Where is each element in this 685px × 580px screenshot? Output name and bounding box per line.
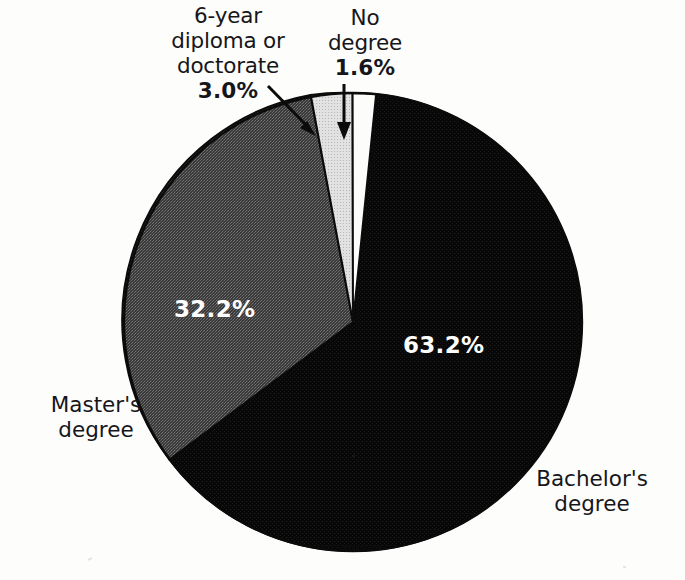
slice-label-bachelors-degree: Bachelor's degree [504,466,680,517]
callout-sixyear-line1: 6-year [128,4,328,29]
slice-percent-bachelors: 63.2% [403,332,484,358]
masters-label-line1: Master's [6,392,186,417]
callout-sixyear-line3: doctorate [128,54,328,79]
callout-no-degree-line2: degree [306,31,424,56]
bachelors-label-line2: degree [504,491,680,516]
bachelors-label-line1: Bachelor's [504,466,680,491]
pie-chart-figure: 6-year diploma or doctorate 3.0% No degr… [0,0,685,580]
slice-label-masters-degree: Master's degree [6,392,186,443]
callout-no-degree-percent: 1.6% [306,56,424,81]
callout-label-sixyear-diploma: 6-year diploma or doctorate 3.0% [128,4,328,104]
callout-label-no-degree: No degree 1.6% [306,6,424,81]
masters-label-line2: degree [6,417,186,442]
callout-no-degree-line1: No [306,6,424,31]
callout-sixyear-line2: diploma or [128,29,328,54]
slice-percent-masters: 32.2% [174,296,255,322]
callout-sixyear-percent: 3.0% [128,79,328,104]
